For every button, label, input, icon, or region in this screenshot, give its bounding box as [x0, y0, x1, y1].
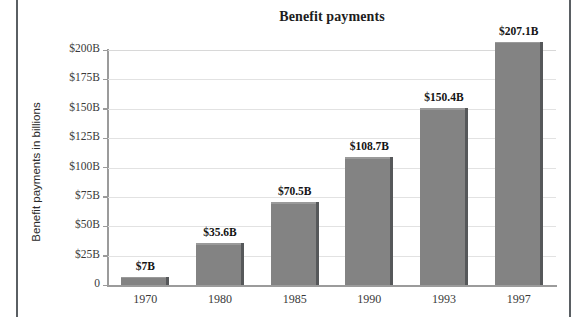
gridline: [108, 256, 556, 257]
bar-value-label: $150.4B: [394, 91, 494, 103]
x-axis-tick-label: 1990: [329, 292, 409, 307]
y-axis-tick-mark: [103, 108, 108, 109]
y-axis-tick-label: $100B: [42, 160, 100, 172]
bar: [495, 42, 543, 285]
bar-value-label: $7B: [95, 260, 195, 272]
bar-value-label: $70.5B: [245, 185, 345, 197]
y-axis-tick-mark: [103, 50, 108, 51]
gridline: [108, 109, 556, 110]
y-axis-tick-mark: [103, 167, 108, 168]
bar-value-label: $35.6B: [170, 226, 270, 238]
y-axis-tick-label: $75B: [42, 189, 100, 201]
x-axis-line: [107, 285, 557, 287]
page-frame-right-rule: [569, 0, 571, 317]
y-axis-tick-label: $150B: [42, 101, 100, 113]
y-axis-tick-mark: [103, 79, 108, 80]
y-axis-tick-label: 0: [42, 277, 100, 289]
chart-page: Benefit payments Benefit payments in bil…: [0, 0, 582, 317]
y-axis-tick-mark: [103, 285, 108, 286]
bar: [121, 277, 169, 285]
x-axis-tick-label: 1985: [255, 292, 335, 307]
y-axis-tick-label: $200B: [42, 42, 100, 54]
y-axis-tick-label: $175B: [42, 71, 100, 83]
page-frame-left-rule: [16, 0, 18, 317]
bar-value-label: $108.7B: [319, 140, 419, 152]
y-axis-tick-mark: [103, 138, 108, 139]
bar: [420, 108, 468, 285]
gridline: [108, 50, 556, 51]
x-axis-tick-label: 1980: [180, 292, 260, 307]
x-axis-tick-label: 1993: [404, 292, 484, 307]
gridline: [108, 168, 556, 169]
y-axis-tick-mark: [103, 196, 108, 197]
y-axis-tick-label: $125B: [42, 130, 100, 142]
x-axis-tick-label: 1970: [105, 292, 185, 307]
y-axis-title: Benefit payments in billions: [30, 67, 42, 277]
chart-title: Benefit payments: [108, 9, 556, 25]
y-axis-tick-mark: [103, 226, 108, 227]
plot-area: $7B$35.6B$70.5B$108.7B$150.4B$207.1B: [108, 50, 556, 285]
gridline: [108, 79, 556, 80]
y-axis-tick-label: $25B: [42, 248, 100, 260]
bar-value-label: $207.1B: [469, 25, 569, 37]
gridline: [108, 138, 556, 139]
x-axis-tick-label: 1997: [479, 292, 559, 307]
y-axis-tick-label: $50B: [42, 218, 100, 230]
y-axis-tick-mark: [103, 255, 108, 256]
bar: [196, 243, 244, 285]
bar: [271, 202, 319, 285]
bar: [345, 157, 393, 285]
